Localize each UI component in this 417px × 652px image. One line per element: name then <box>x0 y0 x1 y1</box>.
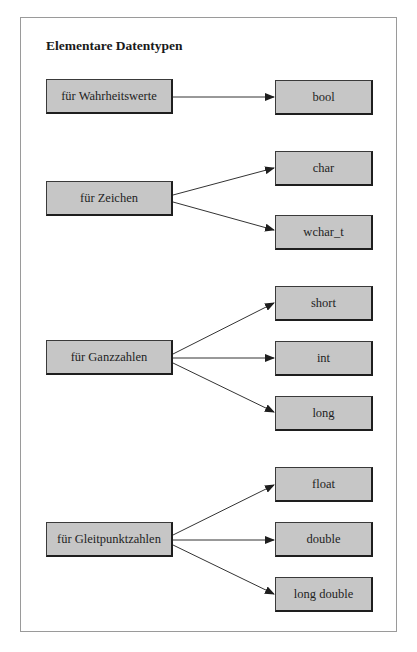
category-label: für Ganzzahlen <box>71 350 148 365</box>
type-node-long: long <box>275 396 373 431</box>
type-label: int <box>317 351 330 366</box>
type-node-short: short <box>275 286 373 321</box>
type-label: long double <box>294 587 353 602</box>
type-label: short <box>311 296 336 311</box>
type-node-double: double <box>275 522 373 557</box>
category-node-zeichen: für Zeichen <box>46 181 173 216</box>
type-node-char: char <box>275 151 373 186</box>
type-node-wchar-t: wchar_t <box>275 215 373 250</box>
type-node-float: float <box>275 467 373 502</box>
diagram-title: Elementare Datentypen <box>46 38 183 54</box>
category-node-gleitpunktzahlen: für Gleitpunktzahlen <box>46 522 173 557</box>
category-label: für Gleitpunktzahlen <box>57 532 161 547</box>
category-node-wahrheitswerte: für Wahrheitswerte <box>46 79 173 114</box>
type-node-long-double: long double <box>275 577 373 612</box>
type-label: double <box>306 532 340 547</box>
type-label: float <box>312 477 335 492</box>
category-label: für Wahrheitswerte <box>61 89 157 104</box>
type-label: wchar_t <box>303 225 343 240</box>
category-label: für Zeichen <box>80 191 138 206</box>
type-node-bool: bool <box>275 80 373 115</box>
type-node-int: int <box>275 341 373 376</box>
type-label: bool <box>312 90 334 105</box>
type-label: char <box>313 161 335 176</box>
type-label: long <box>312 406 334 421</box>
category-node-ganzzahlen: für Ganzzahlen <box>46 340 173 375</box>
